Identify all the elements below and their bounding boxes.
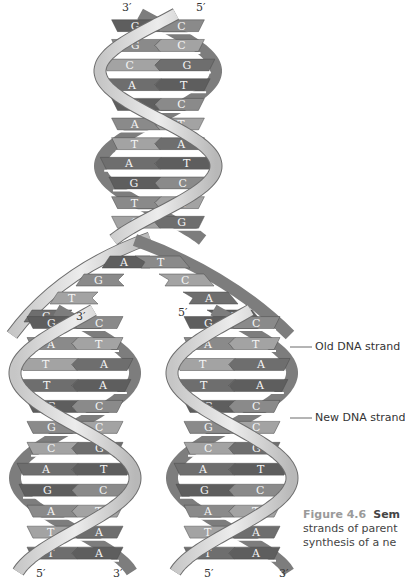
right-fork-5prime-label: 5′ <box>178 306 188 319</box>
base-letter: T <box>43 379 51 392</box>
base-letter: A <box>255 379 265 392</box>
base-letter: C <box>95 400 103 413</box>
base-letter: G <box>204 421 213 434</box>
base-pair: CG <box>101 59 215 73</box>
caption-line-1: strands of parent <box>303 522 400 536</box>
daughter-helix-right: GCATTATAGCGCCGATGCATTATA <box>172 310 292 572</box>
base-letter: A <box>203 505 213 518</box>
base-letter: C <box>177 98 185 111</box>
base-letter: G <box>47 421 56 434</box>
old-dna-strand-label: Old DNA strand <box>315 340 400 353</box>
base-pair: AT <box>17 463 133 477</box>
base-letter: T <box>252 338 260 351</box>
base-letter: A <box>98 379 108 392</box>
base-letter: G <box>177 216 186 229</box>
base-letter: G <box>129 177 138 190</box>
left-bottom-5prime-label: 5′ <box>36 567 46 580</box>
base-pair: GC <box>19 484 131 498</box>
parent-double-helix: GCGCCGATGCATTAATGCTACG <box>100 14 216 240</box>
base-letter: A <box>251 547 261 560</box>
left-fork-3prime-label: 3′ <box>76 310 86 323</box>
right-bottom-3prime-label: 3′ <box>279 567 289 580</box>
base-letter: T <box>42 358 50 371</box>
base-letter: T <box>95 338 103 351</box>
new-dna-strand-label: New DNA strand <box>315 411 405 424</box>
base-pair: TA <box>17 358 133 372</box>
base-letter: A <box>130 118 140 131</box>
base-letter: C <box>256 484 264 497</box>
base-letter: C <box>47 442 55 455</box>
base-letter: T <box>68 292 76 305</box>
base-letter: C <box>126 59 134 72</box>
base-letter: G <box>43 484 52 497</box>
base-letter: A <box>94 526 104 539</box>
base-letter: T <box>183 157 191 170</box>
base-letter: C <box>179 177 187 190</box>
daughter-helix-left: GCATTATAGCGCCGATGCATTATA <box>15 310 135 572</box>
base-letter: C <box>95 317 103 330</box>
base-letter: T <box>157 256 165 269</box>
figure-caption: Figure 4.6 Sem strands of parent synthes… <box>303 508 400 550</box>
base-letter: C <box>177 39 185 52</box>
base-letter: A <box>41 463 51 476</box>
base-letter: T <box>100 463 108 476</box>
base-letter: C <box>252 400 260 413</box>
base-letter: A <box>124 157 134 170</box>
base-letter: G <box>200 484 209 497</box>
base-letter: A <box>94 547 104 560</box>
right-bottom-5prime-label: 5′ <box>204 567 214 580</box>
base-pair: AT <box>100 157 216 171</box>
parent-3prime-label: 3′ <box>122 1 132 14</box>
base-pair: GC <box>176 484 288 498</box>
base-letter: A <box>256 358 266 371</box>
base-pair: TA <box>19 379 131 393</box>
base-letter: T <box>200 379 208 392</box>
base-letter: C <box>204 442 212 455</box>
base-letter: G <box>94 274 103 287</box>
base-letter: A <box>251 526 261 539</box>
base-letter: C <box>99 484 107 497</box>
base-letter: T <box>257 463 265 476</box>
caption-line-2: synthesis of a ne <box>303 536 400 550</box>
figure-title: Sem <box>373 508 400 521</box>
base-pair: TA <box>176 379 288 393</box>
base-letter: C <box>177 20 185 33</box>
base-letter: C <box>181 274 189 287</box>
base-pair: AT <box>174 463 290 477</box>
base-letter: T <box>199 358 207 371</box>
base-letter: A <box>119 256 129 269</box>
base-letter: A <box>204 292 214 305</box>
base-pair: TA <box>174 358 290 372</box>
base-letter: T <box>131 197 139 210</box>
figure-number: Figure 4.6 <box>303 508 366 521</box>
base-letter: C <box>252 317 260 330</box>
left-bottom-3prime-label: 3′ <box>113 567 123 580</box>
parent-5prime-label: 5′ <box>196 1 206 14</box>
base-letter: G <box>182 59 191 72</box>
base-letter: A <box>46 505 56 518</box>
base-letter: A <box>127 79 137 92</box>
base-letter: T <box>131 138 139 151</box>
base-letter: T <box>180 79 188 92</box>
base-letter: A <box>99 358 109 371</box>
base-letter: A <box>198 463 208 476</box>
